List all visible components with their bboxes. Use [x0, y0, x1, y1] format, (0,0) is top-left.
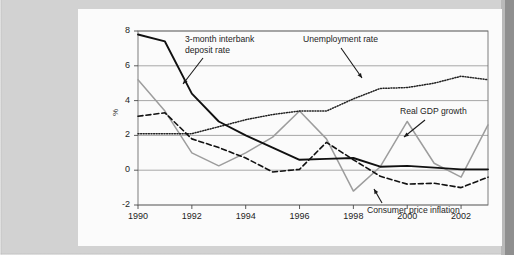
y-tick-label-2: 2: [110, 129, 130, 139]
annotation-arrows: [183, 48, 425, 203]
annotation-interbank-rate-line2: deposit rate: [185, 45, 254, 56]
y-tick-label-4: 4: [110, 95, 130, 105]
x-tick-label-1998: 1998: [336, 211, 370, 221]
y-tick-label-8: 8: [110, 25, 130, 35]
x-tick-label-1990: 1990: [121, 211, 155, 221]
plot-frame: [138, 31, 488, 205]
y-tick-label-0: 0: [110, 164, 130, 174]
gridlines: [138, 31, 488, 205]
annotation-interbank-rate: 3-month interbank deposit rate: [185, 34, 254, 55]
arrow-unemployment-rate-head: [358, 73, 363, 78]
x-tick-label-1992: 1992: [175, 211, 209, 221]
annotation-unemployment-rate: Unemployment rate: [303, 34, 378, 45]
annotation-cpi-inflation: Consumer price inflation: [367, 205, 460, 216]
y-tick-label-6: 6: [110, 60, 130, 70]
x-tick-label-1996: 1996: [283, 211, 317, 221]
plot-border: [138, 31, 488, 205]
x-tick-label-1994: 1994: [229, 211, 263, 221]
annotation-interbank-rate-line1: 3-month interbank: [185, 34, 254, 45]
arrow-unemployment-rate: [341, 48, 362, 78]
y-axis-label: %: [111, 106, 120, 120]
y-tick-label-neg2: -2: [110, 199, 130, 209]
annotation-real-gdp-growth: Real GDP growth: [400, 106, 467, 117]
axis-ticks: [134, 31, 461, 209]
arrow-interbank-rate: [183, 58, 203, 84]
screenshot-root: % 8 6 4 2 0 -2 1990 1992 1994 1996 1998 …: [0, 0, 514, 255]
